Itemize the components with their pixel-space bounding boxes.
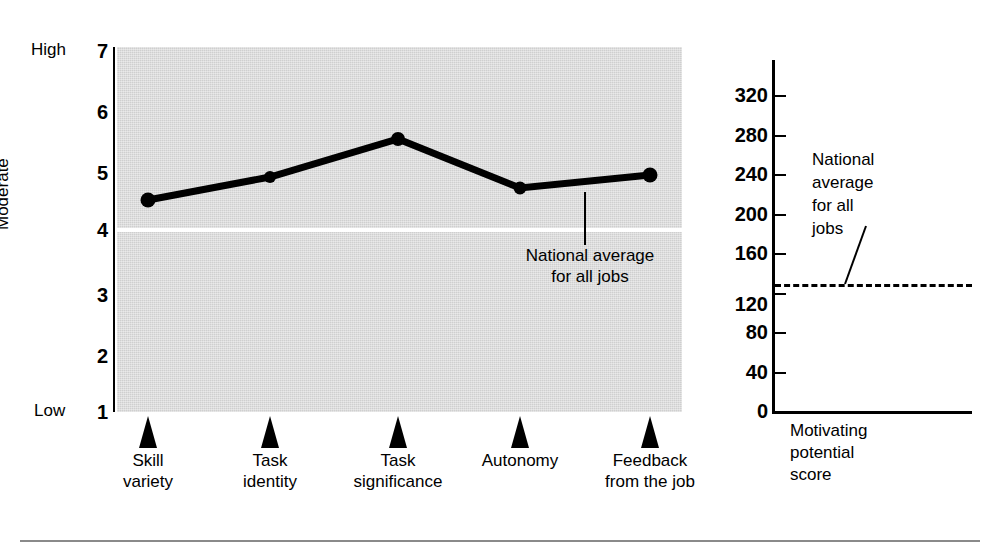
- motivating-potential-score-chart: 320 280 240 200 160 120 80 40 0 National…: [700, 0, 1000, 510]
- job-characteristics-chart: 7 6 5 4 3 2 1 High Moderate Low National…: [0, 0, 700, 510]
- annotation-text-line2: for all jobs: [490, 266, 690, 287]
- mps-annotation-line1: National: [812, 148, 874, 171]
- x-marker-task-significance: [389, 416, 407, 448]
- mps-annotation-line4: jobs: [812, 217, 843, 240]
- mps-axis-title-line1: Motivating: [790, 420, 867, 442]
- figure-container: 7 6 5 4 3 2 1 High Moderate Low National…: [0, 0, 1000, 547]
- bottom-rule: [20, 540, 980, 542]
- x-label-task-significance-line2: significance: [318, 471, 478, 492]
- annotation-text-line1: National average: [490, 245, 690, 266]
- x-marker-feedback: [641, 416, 659, 448]
- mps-axis-title-line3: score: [790, 464, 832, 486]
- mps-annotation-line3: for all: [812, 194, 854, 217]
- x-marker-task-identity: [261, 416, 279, 448]
- mps-axis-title-line2: potential: [790, 442, 854, 464]
- mps-annotation-line2: average: [812, 171, 873, 194]
- mps-annotation-leader-line: [845, 226, 866, 284]
- x-marker-skill-variety: [139, 416, 157, 448]
- x-marker-autonomy: [511, 416, 529, 448]
